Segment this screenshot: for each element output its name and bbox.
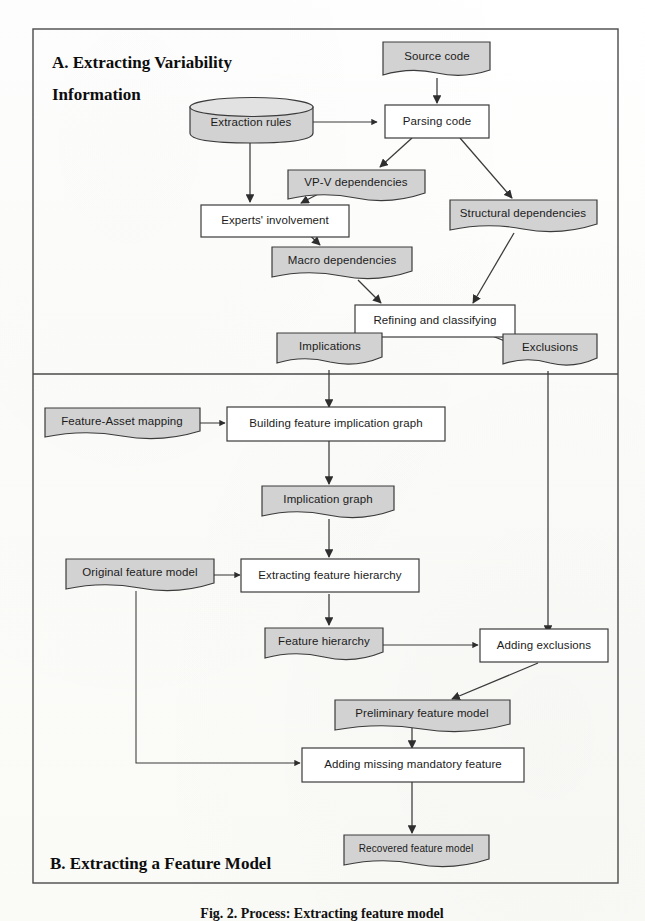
node-macro-dependencies[interactable]: Macro dependencies (272, 247, 412, 279)
node-building-implication-graph-label: Building feature implication graph (249, 417, 422, 429)
node-feature-hierarchy[interactable]: Feature hierarchy (265, 628, 383, 660)
node-experts-involvement[interactable]: Experts' involvement (201, 205, 349, 237)
node-original-feature-model[interactable]: Original feature model (66, 559, 214, 591)
node-refining-classifying-label: Refining and classifying (373, 314, 496, 326)
node-original-feature-model-label: Original feature model (82, 566, 197, 578)
node-extraction-rules[interactable]: Extraction rules (190, 98, 313, 144)
node-preliminary-feature-model[interactable]: Preliminary feature model (335, 700, 510, 732)
node-macro-dependencies-label: Macro dependencies (288, 254, 397, 266)
node-implication-graph[interactable]: Implication graph (262, 486, 394, 518)
node-source-code-label: Source code (404, 50, 470, 62)
node-source-code[interactable]: Source code (383, 42, 490, 75)
figure-caption: Fig. 2. Process: Extracting feature mode… (200, 906, 443, 921)
section-a-title-line2: Information (52, 85, 141, 104)
edge-macro-to-refining (358, 280, 381, 303)
node-parsing-code-label: Parsing code (403, 115, 471, 127)
node-vpv-dependencies-label: VP-V dependencies (304, 176, 408, 188)
section-b-title: B. Extracting a Feature Model (50, 854, 271, 873)
node-feature-hierarchy-label: Feature hierarchy (278, 635, 370, 647)
node-extraction-rules-label: Extraction rules (211, 116, 292, 128)
node-implications-label: Implications (299, 340, 361, 352)
node-preliminary-feature-model-label: Preliminary feature model (355, 707, 489, 719)
node-adding-missing-mandatory-label: Adding missing mandatory feature (324, 758, 502, 770)
node-structural-dependencies-label: Structural dependencies (460, 207, 586, 219)
node-vpv-dependencies[interactable]: VP-V dependencies (288, 170, 425, 201)
node-exclusions[interactable]: Exclusions (503, 334, 597, 365)
edge-adding-exclusions-to-preliminary (452, 663, 538, 699)
node-experts-involvement-label: Experts' involvement (221, 214, 329, 226)
node-structural-dependencies[interactable]: Structural dependencies (450, 200, 597, 232)
node-refining-classifying[interactable]: Refining and classifying (355, 305, 515, 337)
node-extracting-feature-hierarchy[interactable]: Extracting feature hierarchy (241, 559, 419, 592)
edge-parsing-code-to-vpv (380, 138, 412, 167)
node-feature-asset-mapping[interactable]: Feature-Asset mapping (45, 408, 200, 439)
node-implications[interactable]: Implications (277, 333, 382, 364)
node-feature-asset-mapping-label: Feature-Asset mapping (61, 415, 183, 427)
node-building-implication-graph[interactable]: Building feature implication graph (227, 407, 445, 441)
section-a-title-line1: A. Extracting Variability (52, 53, 232, 72)
node-adding-missing-mandatory[interactable]: Adding missing mandatory feature (302, 748, 524, 782)
node-exclusions-label: Exclusions (522, 341, 578, 353)
node-adding-exclusions-label: Adding exclusions (497, 639, 592, 651)
node-recovered-feature-model[interactable]: Recovered feature model (344, 835, 489, 867)
edge-original-model-to-adding-missing (136, 591, 300, 763)
edge-structural-to-refining (473, 233, 514, 303)
node-recovered-feature-model-label: Recovered feature model (359, 843, 474, 854)
node-parsing-code[interactable]: Parsing code (385, 105, 489, 138)
node-extracting-feature-hierarchy-label: Extracting feature hierarchy (258, 569, 402, 581)
node-implication-graph-label: Implication graph (283, 493, 372, 505)
edge-parsing-code-to-structural (460, 138, 512, 198)
node-adding-exclusions[interactable]: Adding exclusions (480, 629, 608, 662)
process-flow-diagram: A. Extracting Variability Information B.… (0, 0, 645, 921)
